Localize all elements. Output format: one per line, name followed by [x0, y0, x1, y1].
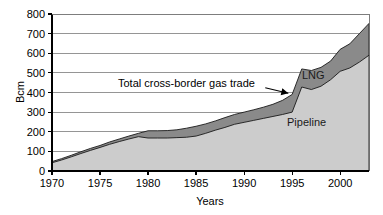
- x-axis-tick-labels: 1970197519801985199019952000: [40, 177, 353, 189]
- y-tick-label-400: 400: [27, 87, 45, 99]
- y-tick-label-200: 200: [27, 126, 45, 138]
- x-tick-label-1970: 1970: [40, 177, 64, 189]
- series-label-lng: LNG: [302, 69, 325, 81]
- x-tick-label-1995: 1995: [280, 177, 304, 189]
- x-tick-label-1980: 1980: [136, 177, 160, 189]
- y-tick-label-600: 600: [27, 47, 45, 59]
- x-tick-label-1975: 1975: [88, 177, 112, 189]
- x-tick-label-2000: 2000: [328, 177, 352, 189]
- series-label-pipeline: Pipeline: [287, 116, 326, 128]
- y-axis-title: Bcm: [14, 81, 26, 103]
- gas-trade-area-chart: 0100200300400500600700800 19701975198019…: [0, 0, 383, 215]
- y-tick-label-300: 300: [27, 106, 45, 118]
- x-tick-label-1990: 1990: [232, 177, 256, 189]
- annotation-label-0: Total cross-border gas trade: [118, 77, 255, 89]
- x-tick-label-1985: 1985: [184, 177, 208, 189]
- chart-container: 0100200300400500600700800 19701975198019…: [0, 0, 383, 215]
- y-axis-tick-labels: 0100200300400500600700800: [27, 8, 45, 177]
- y-tick-label-500: 500: [27, 67, 45, 79]
- y-tick-label-700: 700: [27, 28, 45, 40]
- y-tick-label-100: 100: [27, 145, 45, 157]
- y-tick-label-0: 0: [39, 165, 45, 177]
- x-axis-title: Years: [196, 195, 224, 207]
- y-tick-label-800: 800: [27, 8, 45, 20]
